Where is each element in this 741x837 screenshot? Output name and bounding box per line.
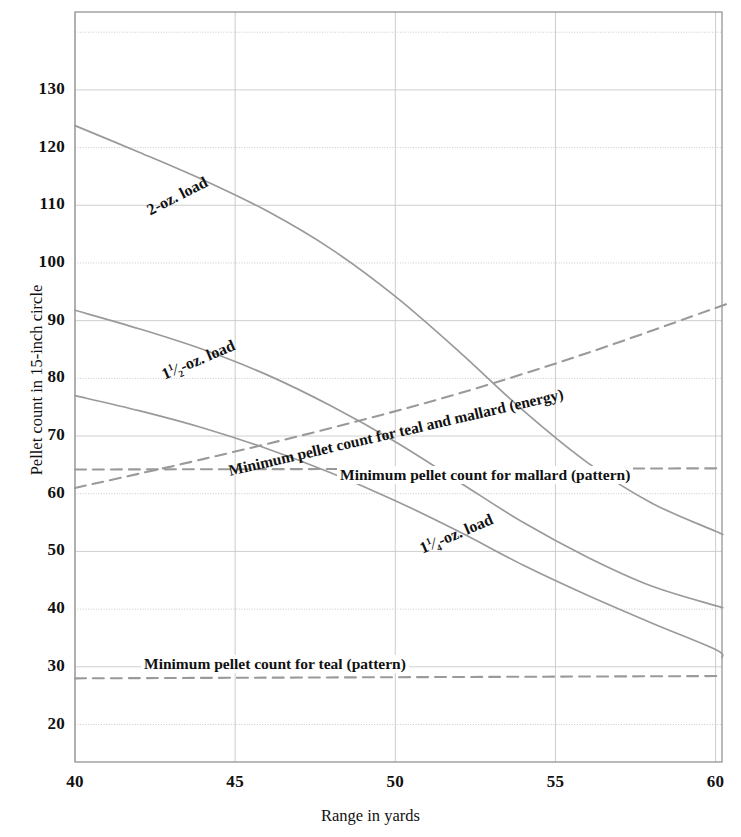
y-tick-label-20: 20: [19, 714, 65, 734]
y-tick-label-30: 30: [19, 656, 65, 676]
x-tick-label-45: 45: [215, 772, 255, 792]
x-axis-title: Range in yards: [0, 806, 741, 826]
y-tick-label-110: 110: [19, 194, 65, 214]
series-line-5: [75, 676, 722, 678]
y-tick-label-100: 100: [19, 252, 65, 272]
series-line-1: [75, 310, 723, 607]
y-tick-label-40: 40: [19, 598, 65, 618]
data-series-group: [75, 126, 727, 679]
x-tick-label-40: 40: [55, 772, 95, 792]
chart-figure: 2030405060708090100110120130 4045505560 …: [0, 0, 741, 837]
y-tick-label-120: 120: [19, 137, 65, 157]
series-label-mallard-pattern: Minimum pellet count for mallard (patter…: [337, 466, 633, 484]
gridlines: [75, 12, 722, 762]
y-tick-label-50: 50: [19, 540, 65, 560]
chart-plot-area: [0, 0, 741, 837]
series-line-3: [75, 304, 727, 488]
y-axis-title: Pellet count in 15-inch circle: [27, 270, 47, 490]
x-tick-label-50: 50: [375, 772, 415, 792]
x-tick-label-60: 60: [696, 772, 736, 792]
series-label-teal-pattern: Minimum pellet count for teal (pattern): [141, 655, 409, 673]
y-tick-label-130: 130: [19, 79, 65, 99]
plot-frame: [75, 12, 722, 762]
x-tick-label-55: 55: [535, 772, 575, 792]
